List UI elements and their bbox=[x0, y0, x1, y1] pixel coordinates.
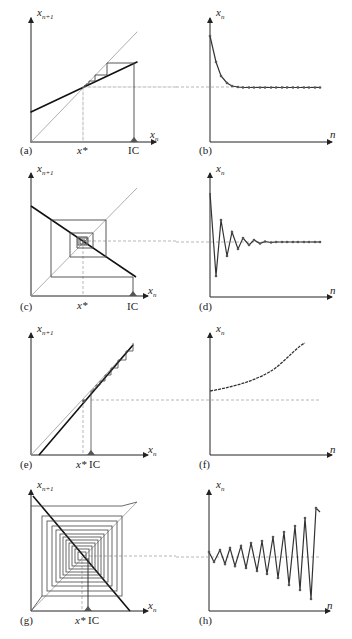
ic-marker-icon bbox=[130, 137, 138, 142]
panel-a-xstar-tick: x* bbox=[77, 144, 87, 156]
panel-b-caption: (b) bbox=[199, 144, 212, 156]
panel-c-ylabel: xn+1 bbox=[37, 162, 54, 177]
panel-d-timeseries bbox=[176, 173, 332, 297]
panel-g-ic-tick: IC bbox=[88, 614, 99, 626]
panel-e-xlabel: xn bbox=[148, 443, 156, 458]
panel-c-caption: (c) bbox=[20, 300, 32, 312]
panel-b-timeseries bbox=[176, 18, 332, 142]
panel-a-cobweb bbox=[31, 18, 176, 142]
panel-a-ic-tick: IC bbox=[128, 144, 139, 156]
panel-a-caption: (a) bbox=[20, 144, 32, 156]
panel-f-xlabel: n bbox=[330, 443, 336, 455]
panel-e-ic-tick: IC bbox=[89, 458, 100, 470]
figure-canvas bbox=[0, 0, 352, 639]
panel-a-ylabel: xn+1 bbox=[37, 6, 54, 21]
panel-g-cobweb bbox=[31, 490, 176, 611]
panel-e-xstar-tick: x* bbox=[76, 458, 86, 470]
panel-e-cobweb bbox=[31, 333, 176, 455]
panel-c-ic-tick: IC bbox=[127, 300, 138, 312]
panel-b-xlabel: n bbox=[330, 128, 336, 140]
panel-g-xlabel: xn bbox=[148, 599, 156, 614]
panel-d-xlabel: n bbox=[330, 284, 336, 296]
panel-g-caption: (g) bbox=[20, 614, 33, 626]
panel-h-ylabel: xn bbox=[216, 478, 224, 493]
panel-b-ylabel: xn bbox=[216, 6, 224, 21]
panel-d-ylabel: xn bbox=[216, 162, 224, 177]
panel-f-caption: (f) bbox=[199, 458, 210, 470]
panel-e-caption: (e) bbox=[20, 458, 32, 470]
panel-a-xlabel: xn bbox=[150, 128, 158, 143]
panel-c-xstar-tick: x* bbox=[77, 299, 87, 311]
panel-d-caption: (d) bbox=[199, 300, 212, 312]
panel-c-cobweb bbox=[31, 173, 176, 296]
panel-f-timeseries bbox=[176, 333, 332, 455]
panel-e-ylabel: xn+1 bbox=[37, 322, 54, 337]
panel-f-ylabel: xn bbox=[216, 322, 224, 337]
panel-h-caption: (h) bbox=[199, 614, 212, 626]
panel-h-timeseries bbox=[176, 490, 330, 611]
panel-c-xlabel: xn bbox=[148, 284, 156, 299]
panel-g-ylabel: xn+1 bbox=[37, 478, 54, 493]
panel-g-xstar-tick: x* bbox=[75, 614, 85, 626]
panel-h-xlabel: n bbox=[327, 599, 333, 611]
